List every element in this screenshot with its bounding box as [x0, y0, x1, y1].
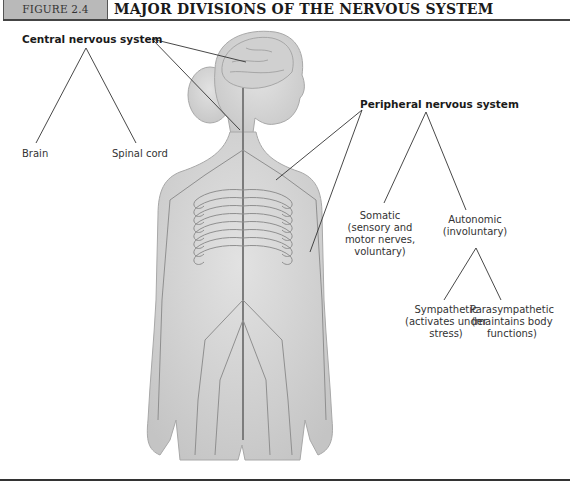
human-figure-illustration: [0, 0, 570, 495]
somatic-desc-3: voluntary): [335, 246, 425, 258]
somatic-desc-2: motor nerves,: [335, 234, 425, 246]
brain-label: Brain: [22, 148, 48, 159]
somatic-desc-1: (sensory and: [335, 222, 425, 234]
parasympathetic-desc-2: functions): [462, 328, 562, 340]
cns-title: Central nervous system: [22, 33, 162, 45]
parasympathetic-name: Parasympathetic: [462, 304, 562, 316]
pns-title: Peripheral nervous system: [360, 98, 519, 110]
parasympathetic-desc-1: (maintains body: [462, 316, 562, 328]
autonomic-name: Autonomic: [430, 214, 520, 226]
autonomic-label: Autonomic (involuntary): [430, 214, 520, 238]
bottom-divider: [0, 479, 570, 481]
somatic-label: Somatic (sensory and motor nerves, volun…: [335, 210, 425, 258]
parasympathetic-label: Parasympathetic (maintains body function…: [462, 304, 562, 340]
somatic-name: Somatic: [335, 210, 425, 222]
autonomic-desc: (involuntary): [430, 226, 520, 238]
spinal-cord-label: Spinal cord: [112, 148, 168, 159]
